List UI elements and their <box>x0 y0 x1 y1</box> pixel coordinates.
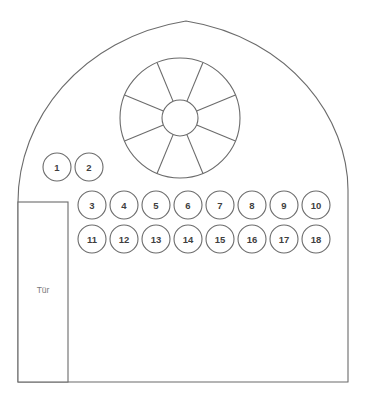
seat-number-label: 2 <box>86 162 91 173</box>
seat-3[interactable]: 3 <box>78 191 106 219</box>
seat-6[interactable]: 6 <box>174 191 202 219</box>
seat-17[interactable]: 17 <box>270 225 298 253</box>
seat-number-label: 16 <box>247 234 258 245</box>
seat-number-label: 6 <box>185 200 190 211</box>
rose-window-inner-circle <box>162 100 198 136</box>
seat-2[interactable]: 2 <box>75 153 103 181</box>
seat-number-label: 12 <box>119 234 130 245</box>
seat-8[interactable]: 8 <box>238 191 266 219</box>
seat-number-label: 14 <box>183 234 194 245</box>
rose-window <box>120 58 240 178</box>
seat-13[interactable]: 13 <box>142 225 170 253</box>
seat-number-label: 1 <box>54 162 60 173</box>
seat-number-label: 3 <box>89 200 94 211</box>
floor-plan-canvas: Tür 123456789101112131415161718 <box>0 0 367 405</box>
seat-number-label: 5 <box>153 200 159 211</box>
seat-14[interactable]: 14 <box>174 225 202 253</box>
seat-number-label: 11 <box>87 234 98 245</box>
seat-18[interactable]: 18 <box>302 225 330 253</box>
seat-9[interactable]: 9 <box>270 191 298 219</box>
seat-7[interactable]: 7 <box>206 191 234 219</box>
seat-number-label: 4 <box>121 200 127 211</box>
seat-1[interactable]: 1 <box>43 153 71 181</box>
seat-number-label: 18 <box>311 234 322 245</box>
seat-15[interactable]: 15 <box>206 225 234 253</box>
seat-5[interactable]: 5 <box>142 191 170 219</box>
seat-number-label: 7 <box>217 200 222 211</box>
seat-number-label: 9 <box>281 200 286 211</box>
seat-number-label: 17 <box>279 234 290 245</box>
door-group[interactable]: Tür <box>18 202 68 382</box>
seat-number-label: 13 <box>151 234 162 245</box>
floor-plan-diagram: Tür 123456789101112131415161718 <box>0 0 367 405</box>
seat-16[interactable]: 16 <box>238 225 266 253</box>
seat-11[interactable]: 11 <box>78 225 106 253</box>
seat-number-label: 10 <box>311 200 322 211</box>
seat-12[interactable]: 12 <box>110 225 138 253</box>
seat-number-label: 8 <box>249 200 254 211</box>
seat-10[interactable]: 10 <box>302 191 330 219</box>
door-label: Tür <box>37 285 50 295</box>
seat-number-label: 15 <box>215 234 226 245</box>
seat-4[interactable]: 4 <box>110 191 138 219</box>
